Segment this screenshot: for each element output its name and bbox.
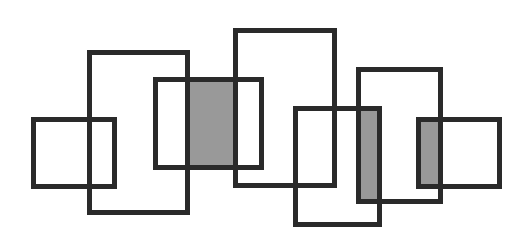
- rectangle-g: [416, 117, 502, 189]
- overlapping-rectangles-diagram: [0, 0, 531, 238]
